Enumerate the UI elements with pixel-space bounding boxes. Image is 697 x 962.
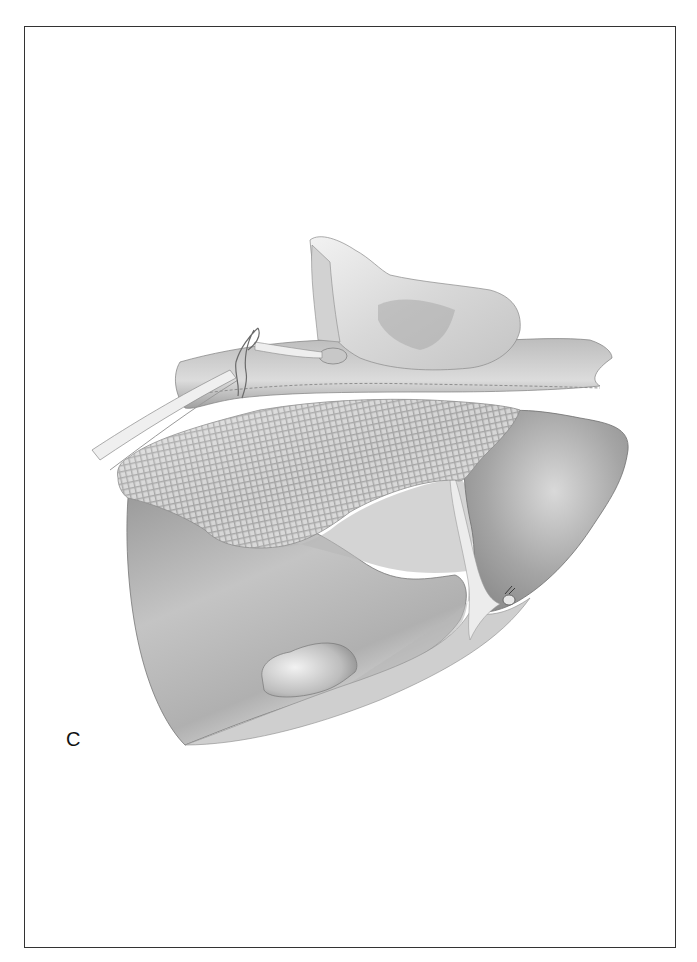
- port-base: [319, 348, 347, 364]
- liver-surgical-illustration: [0, 0, 697, 962]
- ligament-stump-tie: [503, 595, 515, 605]
- panel-label: C: [66, 729, 80, 749]
